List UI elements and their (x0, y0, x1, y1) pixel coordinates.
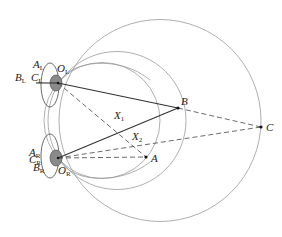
label-B: B (181, 95, 188, 107)
solid-lines (36, 83, 178, 158)
point-B (176, 106, 179, 109)
label-BL: BL (15, 71, 26, 85)
point-OL (57, 82, 59, 84)
label-OL: OL (57, 62, 69, 76)
inner-arc (60, 63, 150, 82)
label-CL: CL (31, 71, 43, 85)
label-BR: BR (33, 161, 45, 175)
dashed-lines (58, 83, 261, 158)
label-A: A (150, 152, 158, 164)
point-A (144, 155, 147, 158)
point-OR (57, 157, 59, 159)
label-X2: X2 (131, 130, 143, 144)
label-OR: OR (58, 164, 71, 178)
inner-arc (60, 160, 150, 178)
label-C: C (266, 121, 274, 133)
binocular-diagram: A B C X1 X2 OL OR AL BL CL AR CR BR (0, 0, 282, 237)
line-B-C (178, 108, 261, 127)
label-X1: X1 (113, 109, 125, 123)
label-AL: AL (32, 58, 44, 72)
line-OL-B (58, 83, 178, 108)
line-OR-A (58, 157, 146, 158)
line-OL-A (58, 83, 146, 157)
point-C (259, 125, 262, 128)
line-OR-C (58, 127, 261, 158)
vieth-muller-circles (44, 20, 261, 222)
